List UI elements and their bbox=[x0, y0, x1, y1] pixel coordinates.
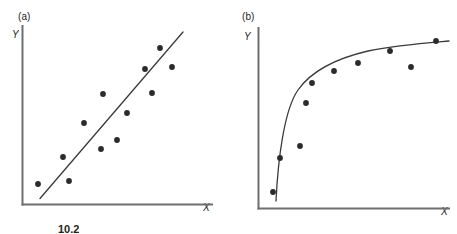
panel-a-fit-line bbox=[40, 32, 183, 199]
data-point bbox=[408, 64, 414, 70]
data-point bbox=[142, 66, 148, 72]
data-point bbox=[124, 110, 130, 116]
data-point bbox=[114, 137, 120, 143]
data-point bbox=[157, 45, 163, 51]
data-point bbox=[270, 189, 276, 195]
data-point bbox=[100, 91, 106, 97]
panel-a-plot bbox=[0, 0, 228, 234]
data-point bbox=[277, 155, 283, 161]
data-point bbox=[60, 154, 66, 160]
panel-b-data-points bbox=[270, 38, 439, 195]
data-point bbox=[387, 48, 393, 54]
data-point bbox=[331, 68, 337, 74]
data-point bbox=[169, 64, 175, 70]
data-point bbox=[303, 100, 309, 106]
data-point bbox=[309, 80, 315, 86]
panel-b-fit-curve bbox=[276, 41, 449, 201]
data-point bbox=[81, 120, 87, 126]
data-point bbox=[355, 60, 361, 66]
data-point bbox=[35, 181, 41, 187]
data-point bbox=[66, 178, 72, 184]
data-point bbox=[297, 143, 303, 149]
figure-container: (a) Y X bbox=[0, 0, 457, 234]
panel-a: (a) Y X bbox=[0, 0, 228, 234]
data-point bbox=[433, 38, 439, 44]
figure-caption: 10.2 bbox=[58, 224, 79, 234]
data-point bbox=[98, 146, 104, 152]
panel-b-plot bbox=[228, 0, 457, 234]
data-point bbox=[149, 90, 155, 96]
panel-b: (b) Y X bbox=[228, 0, 457, 234]
